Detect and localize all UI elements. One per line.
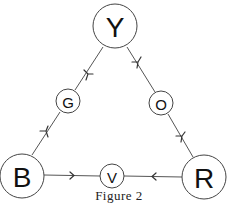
node-o-label: O xyxy=(155,96,167,113)
node-b-label: B xyxy=(13,162,32,193)
node-g-label: G xyxy=(62,94,74,111)
node-r-label: R xyxy=(194,163,214,194)
arrow-y-o-icon xyxy=(132,57,141,68)
edge-b-v xyxy=(44,175,100,176)
edge-y-o xyxy=(127,47,155,92)
edge-g-b xyxy=(32,112,60,155)
color-triangle-diagram: Y B R G O V Figure 2 xyxy=(0,0,228,209)
figure-caption: Figure 2 xyxy=(95,188,143,203)
node-v-label: V xyxy=(107,169,117,186)
node-y-label: Y xyxy=(106,12,125,43)
edge-y-g xyxy=(75,47,103,90)
